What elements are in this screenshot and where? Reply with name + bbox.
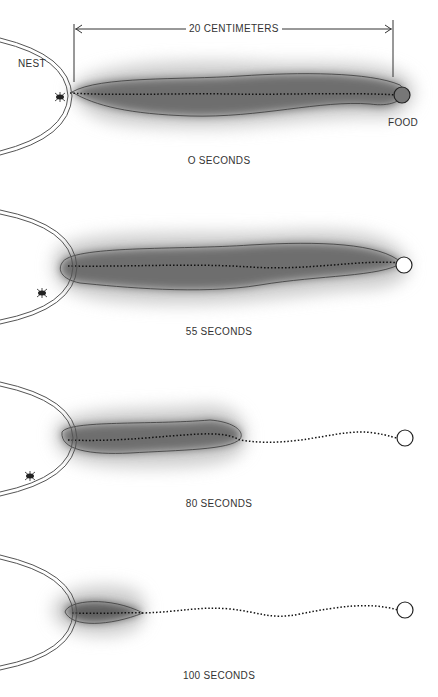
distance-label: 20 CENTIMETERS [186, 23, 282, 34]
ant-icon [37, 288, 47, 298]
panel-100-seconds: 100 SECONDS [0, 530, 438, 697]
panel-80-seconds: 80 SECONDS [0, 370, 438, 530]
ant-icon [55, 92, 65, 102]
food-source [397, 430, 413, 446]
nest-label: NEST [18, 58, 46, 69]
panel-caption: 55 SECONDS [0, 326, 438, 337]
panel-0-seconds: 20 CENTIMETERS NEST FOOD O SECONDS [0, 0, 438, 195]
trail-diagram-55s [0, 195, 438, 370]
food-source [397, 602, 413, 618]
food-label: FOOD [388, 117, 418, 128]
food-source [396, 257, 412, 273]
panel-caption: 80 SECONDS [0, 498, 438, 509]
food-source [394, 87, 410, 103]
ant-icon [25, 471, 35, 481]
panel-caption: O SECONDS [0, 155, 438, 166]
panel-55-seconds: 55 SECONDS [0, 195, 438, 370]
panel-caption: 100 SECONDS [0, 670, 438, 681]
